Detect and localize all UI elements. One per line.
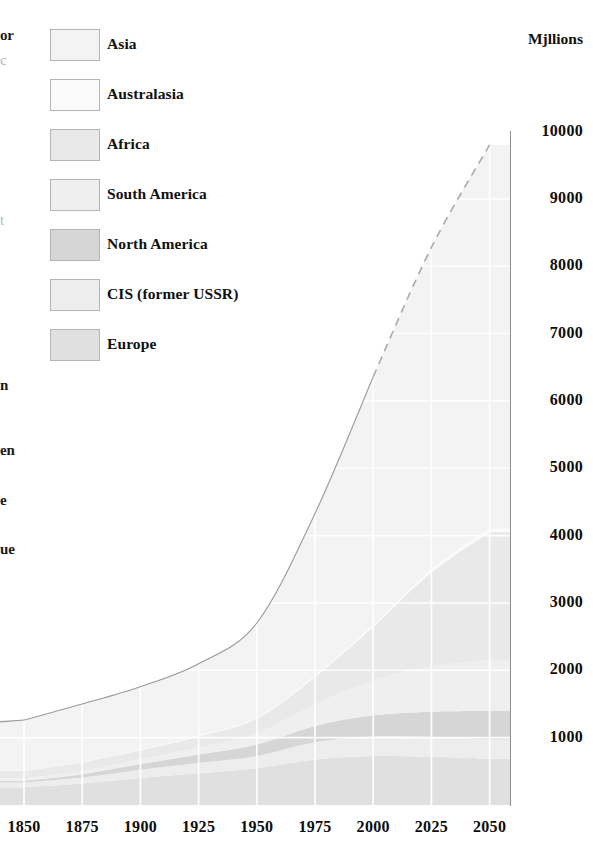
cut-off-text-fragment: c xyxy=(0,52,6,69)
x-axis-tick-label: 1875 xyxy=(66,818,99,836)
legend-swatch-icon xyxy=(50,329,100,361)
y-axis-title: Mjllions xyxy=(528,30,583,48)
legend-item-label: Europe xyxy=(107,335,156,353)
x-axis-tick-labels: 185018751900192519501975200020252050 xyxy=(0,818,593,849)
x-axis-tick-label: 2050 xyxy=(473,818,506,836)
y-axis-line xyxy=(510,131,511,806)
stacked-area-chart xyxy=(0,0,511,806)
x-axis-tick-label: 1950 xyxy=(240,818,273,836)
y-axis-tick-label: 5000 xyxy=(550,458,583,476)
y-axis-tick-label: 7000 xyxy=(550,324,583,342)
legend-swatch-icon xyxy=(50,229,100,261)
x-axis-tick-label: 1900 xyxy=(124,818,157,836)
legend-item-label: Australasia xyxy=(107,85,184,103)
cut-off-text-fragment: en xyxy=(0,442,15,459)
cut-off-text-fragment: or xyxy=(0,27,14,44)
legend-swatch-icon xyxy=(50,79,100,111)
x-axis-tick-label: 1975 xyxy=(298,818,331,836)
legend-item-label: South America xyxy=(107,185,207,203)
left-page-gutter-text: orctneneue xyxy=(0,0,26,849)
cut-off-text-fragment: ue xyxy=(0,541,15,558)
x-axis-tick-label: 2000 xyxy=(357,818,390,836)
legend-item-label: Africa xyxy=(107,135,150,153)
legend-swatch-icon xyxy=(50,129,100,161)
cut-off-text-fragment: t xyxy=(0,212,4,229)
y-axis-tick-label: 6000 xyxy=(550,391,583,409)
y-axis-tick-label: 10000 xyxy=(542,122,584,140)
legend-item-label: CIS (former USSR) xyxy=(107,285,238,303)
cut-off-text-fragment: e xyxy=(0,492,6,509)
y-axis-tick-label: 8000 xyxy=(550,256,583,274)
y-axis-tick-label: 4000 xyxy=(550,526,583,544)
x-axis-tick-label: 1925 xyxy=(182,818,215,836)
legend-swatch-icon xyxy=(50,279,100,311)
cut-off-text-fragment: n xyxy=(0,377,8,394)
y-axis-tick-label: 1000 xyxy=(550,728,583,746)
y-axis-tick-label: 9000 xyxy=(550,189,583,207)
y-axis-tick-label: 2000 xyxy=(550,660,583,678)
legend-item-label: Asia xyxy=(107,35,137,53)
x-axis-tick-label: 2025 xyxy=(415,818,448,836)
y-axis-tick-label: 3000 xyxy=(550,593,583,611)
legend-swatch-icon xyxy=(50,29,100,61)
chart-plot-area xyxy=(0,0,511,806)
legend-item-label: North America xyxy=(107,235,208,253)
legend-swatch-icon xyxy=(50,179,100,211)
